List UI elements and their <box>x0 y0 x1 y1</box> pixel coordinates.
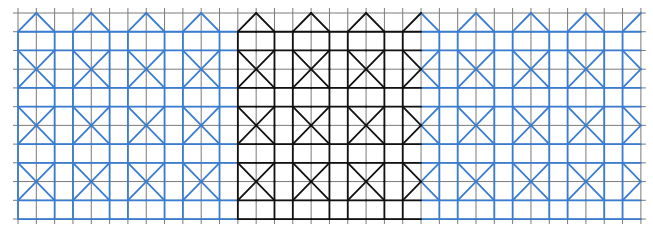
x-diagonal <box>311 69 329 88</box>
x-diagonal <box>348 50 366 69</box>
x-diagonal <box>91 50 109 69</box>
x-diagonal <box>366 69 384 88</box>
x-diagonal <box>513 50 531 69</box>
x-diagonal <box>256 50 274 69</box>
apex-edge <box>421 13 439 32</box>
x-diagonal <box>91 125 109 144</box>
apex-edge <box>183 13 201 32</box>
x-diagonal <box>73 107 91 126</box>
x-diagonal <box>348 69 366 88</box>
apex-edge <box>238 13 256 32</box>
x-diagonal <box>568 125 586 144</box>
apex-edge <box>73 13 91 32</box>
x-diagonal <box>586 182 604 201</box>
x-diagonal <box>36 69 54 88</box>
x-diagonal <box>36 107 54 126</box>
x-diagonal <box>366 182 384 201</box>
apex-edge <box>146 13 164 32</box>
x-diagonal <box>73 182 91 201</box>
x-diagonal <box>403 163 421 182</box>
tessellation-figure <box>0 0 653 231</box>
x-diagonal <box>293 50 311 69</box>
x-diagonal <box>256 125 274 144</box>
x-diagonal <box>146 69 164 88</box>
x-diagonal <box>201 182 219 201</box>
x-diagonal <box>623 125 641 144</box>
x-diagonal <box>146 182 164 201</box>
x-diagonal <box>531 163 549 182</box>
x-diagonal <box>513 163 531 182</box>
x-diagonal <box>146 107 164 126</box>
x-diagonal <box>201 50 219 69</box>
apex-edge <box>476 13 494 32</box>
x-diagonal <box>18 69 36 88</box>
x-diagonal <box>183 69 201 88</box>
x-diagonal <box>128 125 146 144</box>
x-diagonal <box>586 125 604 144</box>
x-diagonal <box>421 107 439 126</box>
apex-edge <box>403 13 421 32</box>
x-diagonal <box>293 125 311 144</box>
x-diagonal <box>183 182 201 201</box>
x-diagonal <box>458 125 476 144</box>
x-diagonal <box>36 163 54 182</box>
x-diagonal <box>513 182 531 201</box>
pattern-lines-black <box>238 13 421 219</box>
x-diagonal <box>238 69 256 88</box>
x-diagonal <box>238 107 256 126</box>
x-diagonal <box>183 125 201 144</box>
x-diagonal <box>348 182 366 201</box>
apex-edge <box>293 13 311 32</box>
x-diagonal <box>146 163 164 182</box>
x-diagonal <box>531 69 549 88</box>
x-diagonal <box>348 125 366 144</box>
apex-edge <box>91 13 109 32</box>
x-diagonal <box>201 69 219 88</box>
x-diagonal <box>476 125 494 144</box>
x-diagonal <box>293 107 311 126</box>
x-diagonal <box>293 182 311 201</box>
x-diagonal <box>311 182 329 201</box>
x-diagonal <box>73 163 91 182</box>
x-diagonal <box>366 125 384 144</box>
x-diagonal <box>18 182 36 201</box>
x-diagonal <box>36 125 54 144</box>
x-diagonal <box>256 69 274 88</box>
x-diagonal <box>201 163 219 182</box>
x-diagonal <box>201 125 219 144</box>
x-diagonal <box>476 107 494 126</box>
x-diagonal <box>421 50 439 69</box>
x-diagonal <box>183 163 201 182</box>
x-diagonal <box>568 107 586 126</box>
apex-edge <box>128 13 146 32</box>
x-diagonal <box>458 50 476 69</box>
apex-edge <box>311 13 329 32</box>
x-diagonal <box>128 69 146 88</box>
x-diagonal <box>623 107 641 126</box>
x-diagonal <box>201 107 219 126</box>
x-diagonal <box>458 163 476 182</box>
x-diagonal <box>146 125 164 144</box>
x-diagonal <box>256 107 274 126</box>
x-diagonal <box>183 107 201 126</box>
apex-edge <box>623 13 641 32</box>
apex-edge <box>531 13 549 32</box>
x-diagonal <box>586 107 604 126</box>
x-diagonal <box>403 182 421 201</box>
x-diagonal <box>128 50 146 69</box>
x-diagonal <box>348 107 366 126</box>
x-diagonal <box>623 69 641 88</box>
x-diagonal <box>623 50 641 69</box>
x-diagonal <box>531 107 549 126</box>
x-diagonal <box>586 163 604 182</box>
apex-edge <box>36 13 54 32</box>
x-diagonal <box>403 125 421 144</box>
x-diagonal <box>128 107 146 126</box>
apex-edge <box>18 13 36 32</box>
x-diagonal <box>256 182 274 201</box>
x-diagonal <box>366 163 384 182</box>
x-diagonal <box>311 125 329 144</box>
x-diagonal <box>586 50 604 69</box>
apex-edge <box>568 13 586 32</box>
x-diagonal <box>623 163 641 182</box>
